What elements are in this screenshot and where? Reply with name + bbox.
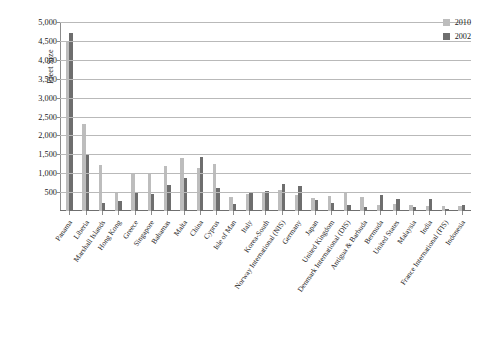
y-axis-tick <box>56 117 60 118</box>
bar-2002 <box>151 194 154 211</box>
bar-2002 <box>184 178 187 211</box>
bar-2002 <box>102 203 105 212</box>
bar-2002 <box>396 199 399 211</box>
legend-item: 2002 <box>443 32 471 41</box>
legend-label: 2002 <box>455 32 471 41</box>
gridline <box>60 22 471 23</box>
bar-2002 <box>282 184 285 211</box>
gridline <box>60 192 471 193</box>
y-axis-tick-label: 5,000 <box>1 18 57 27</box>
x-axis-labels: PanamaLiberiaMarshall IslandsHong KongGr… <box>60 215 471 335</box>
y-axis-tick-label: 1,000 <box>1 169 57 178</box>
legend-swatch-icon <box>443 33 450 40</box>
legend-label: 2010 <box>455 18 471 27</box>
plot-area <box>60 22 471 211</box>
gridline <box>60 60 471 61</box>
gridline <box>60 79 471 80</box>
bar-2002 <box>429 199 432 211</box>
y-axis-tick-label: 500 <box>1 188 57 197</box>
bar-2002 <box>265 191 268 211</box>
bar-2002 <box>298 186 301 211</box>
gridline <box>60 135 471 136</box>
y-axis-tick-label: 2,500 <box>1 112 57 121</box>
y-axis-tick-label: 3,500 <box>1 74 57 83</box>
y-axis-tick <box>56 154 60 155</box>
bar-2002 <box>118 201 121 211</box>
gridline <box>60 41 471 42</box>
y-axis-tick-labels: 5,0004,5004,0003,5003,0002,5002,0001,500… <box>0 22 57 211</box>
bar-2002 <box>200 157 203 211</box>
y-axis-tick <box>56 192 60 193</box>
bar-2002 <box>249 192 252 211</box>
y-axis-tick-label: 2,000 <box>1 131 57 140</box>
gridline <box>60 117 471 118</box>
y-axis-tick <box>56 41 60 42</box>
y-axis-tick <box>56 60 60 61</box>
bar-2002 <box>135 192 138 211</box>
y-axis-tick-label: 1,500 <box>1 150 57 159</box>
legend-item: 2010 <box>443 18 471 27</box>
gridline <box>60 173 471 174</box>
bar-2002 <box>331 203 334 211</box>
bar-2002 <box>380 195 383 211</box>
y-axis-tick <box>56 79 60 80</box>
gridline <box>60 154 471 155</box>
gridline <box>60 98 471 99</box>
fleet-size-bar-chart: Fleet Size 5,0004,5004,0003,5003,0002,50… <box>0 0 485 337</box>
bar-2002 <box>233 204 236 211</box>
y-axis-tick-label: 4,000 <box>1 55 57 64</box>
y-axis-tick <box>56 173 60 174</box>
y-axis-tick-label: 3,000 <box>1 93 57 102</box>
y-axis-tick <box>56 22 60 23</box>
y-axis-tick-label: 4,500 <box>1 36 57 45</box>
y-axis-tick <box>56 98 60 99</box>
chart-legend: 20102002 <box>443 18 471 41</box>
y-axis-tick <box>56 135 60 136</box>
bar-2002 <box>86 154 89 211</box>
bar-2002 <box>315 200 318 211</box>
legend-swatch-icon <box>443 19 450 26</box>
bar-2002 <box>167 185 170 211</box>
